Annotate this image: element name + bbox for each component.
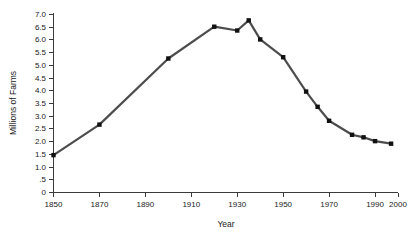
y-axis-tick-marks: [49, 15, 54, 193]
chart-figure: 0.51.01.52.02.53.03.54.04.55.05.56.06.57…: [0, 0, 418, 246]
data-point-marker: [281, 55, 285, 59]
x-tick-label: 1850: [45, 200, 63, 209]
y-axis-title: Millions of Farms: [8, 71, 18, 135]
y-tick-label: 2.5: [35, 124, 47, 133]
y-tick-label: 0: [42, 188, 47, 197]
x-tick-label: 2000: [389, 200, 407, 209]
data-point-marker: [166, 56, 170, 60]
x-tick-label: 1990: [366, 200, 384, 209]
y-tick-label: 3.0: [35, 112, 47, 121]
data-series-line: [54, 20, 392, 155]
line-chart: 0.51.01.52.02.53.03.54.04.55.05.56.06.57…: [0, 0, 418, 246]
y-tick-label: 4.5: [35, 74, 47, 83]
x-axis-tick-labels: 185018701890191019301950197019902000: [45, 200, 408, 209]
x-tick-label: 1970: [320, 200, 338, 209]
data-point-marker: [235, 28, 239, 32]
data-point-marker: [361, 135, 365, 139]
x-tick-label: 1930: [228, 200, 246, 209]
data-point-marker: [304, 89, 308, 93]
y-tick-label: 4.0: [35, 86, 47, 95]
data-series-markers: [51, 18, 393, 157]
data-point-marker: [315, 105, 319, 109]
data-point-marker: [389, 141, 393, 145]
y-tick-label: 7.0: [35, 10, 47, 19]
x-tick-label: 1910: [182, 200, 200, 209]
y-tick-label: 5.5: [35, 48, 47, 57]
y-tick-label: 5.0: [35, 61, 47, 70]
x-axis-title: Year: [217, 219, 234, 229]
data-point-marker: [350, 133, 354, 137]
y-axis-tick-labels: 0.51.01.52.02.53.03.54.04.55.05.56.06.57…: [35, 10, 47, 197]
x-axis-tick-marks: [54, 193, 399, 198]
data-point-marker: [212, 25, 216, 29]
data-point-marker: [97, 122, 101, 126]
data-point-marker: [327, 119, 331, 123]
y-tick-label: 6.5: [35, 23, 47, 32]
y-tick-label: 6.0: [35, 35, 47, 44]
data-point-marker: [51, 153, 55, 157]
y-tick-label: 3.5: [35, 99, 47, 108]
y-tick-label: 1.5: [35, 150, 47, 159]
data-point-marker: [373, 139, 377, 143]
x-tick-label: 1950: [274, 200, 292, 209]
y-tick-label: .5: [39, 175, 46, 184]
x-tick-label: 1870: [91, 200, 109, 209]
y-tick-label: 1.0: [35, 163, 47, 172]
y-tick-label: 2.0: [35, 137, 47, 146]
data-point-marker: [258, 37, 262, 41]
x-tick-label: 1890: [136, 200, 154, 209]
data-point-marker: [247, 18, 251, 22]
